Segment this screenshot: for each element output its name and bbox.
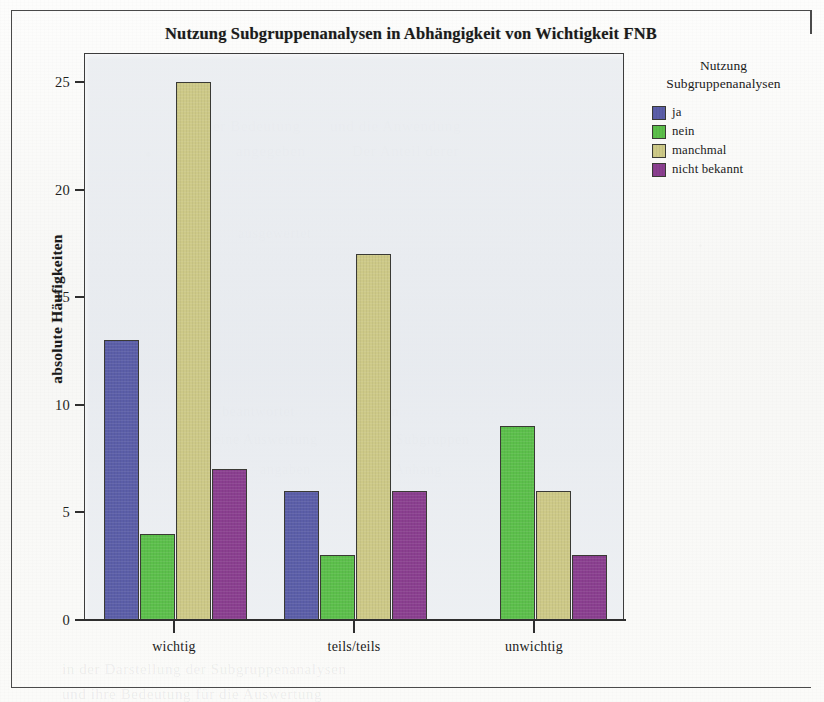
bar-nein-unwichtig: [500, 426, 535, 620]
x-tick-mark: [533, 621, 535, 633]
y-tick-label: 5: [62, 504, 70, 521]
legend: Nutzung Subgruppenanalysen janeinmanchma…: [640, 57, 815, 180]
bar-nicht-bekannt-teils-teils: [392, 491, 427, 620]
x-tick-label-wichtig: wichtig: [152, 639, 195, 655]
y-tick-mark: [75, 296, 84, 298]
y-tick-label: 20: [55, 181, 70, 198]
y-axis-title: absolute Häufigkeiten: [48, 234, 66, 383]
y-tick-label: 0: [62, 612, 70, 629]
x-tick-label-unwichtig: unwichtig: [505, 639, 563, 655]
legend-swatch-nein: [652, 125, 666, 139]
x-tick-label-teils-teils: teils/teils: [328, 639, 381, 655]
bar-ja-wichtig: [104, 340, 139, 620]
legend-item-ja: ja: [652, 104, 815, 122]
legend-title-line-1: Nutzung: [640, 57, 807, 75]
y-tick-mark: [75, 511, 84, 513]
y-tick-mark: [75, 189, 84, 191]
y-tick-label: 10: [55, 396, 70, 413]
legend-title: Nutzung Subgruppenanalysen: [640, 57, 815, 93]
y-tick-mark: [75, 619, 84, 621]
x-tick-mark: [173, 621, 175, 633]
y-tick-label: 25: [55, 74, 70, 91]
legend-items: janeinmanchmalnicht bekannt: [640, 104, 815, 179]
legend-swatch-ja: [652, 106, 666, 120]
bar-nicht-bekannt-wichtig: [212, 469, 247, 620]
legend-swatch-manchmal: [652, 144, 666, 158]
legend-item-nicht-bekannt: nicht bekannt: [652, 161, 815, 179]
bar-nicht-bekannt-unwichtig: [572, 555, 607, 620]
bar-manchmal-unwichtig: [536, 491, 571, 620]
bar-manchmal-wichtig: [176, 82, 211, 620]
legend-label: manchmal: [672, 143, 727, 158]
chart-title: Nutzung Subgruppenanalysen in Abhängigke…: [11, 24, 811, 44]
x-tick-mark: [353, 621, 355, 633]
bar-nein-wichtig: [140, 534, 175, 620]
bar-ja-teils-teils: [284, 491, 319, 620]
x-axis-baseline: [84, 619, 626, 621]
legend-label: nicht bekannt: [672, 162, 743, 177]
bar-manchmal-teils-teils: [356, 254, 391, 620]
legend-swatch-nicht-bekannt: [652, 163, 666, 177]
y-tick-mark: [75, 404, 84, 406]
legend-label: ja: [672, 105, 682, 120]
y-tick-mark: [75, 81, 84, 83]
legend-label: nein: [672, 124, 695, 139]
bar-nein-teils-teils: [320, 555, 355, 620]
legend-item-nein: nein: [652, 123, 815, 141]
legend-title-line-2: Subgruppenanalysen: [640, 75, 807, 93]
legend-item-manchmal: manchmal: [652, 142, 815, 160]
plot-area: [84, 53, 624, 620]
